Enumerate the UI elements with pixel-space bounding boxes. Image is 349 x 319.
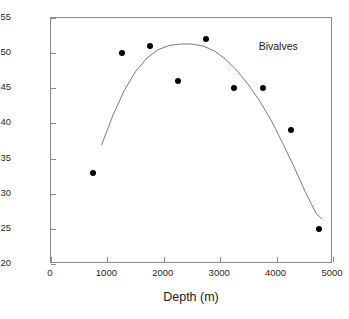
fit-curve bbox=[51, 18, 333, 264]
x-tick-mark bbox=[164, 257, 165, 262]
data-point bbox=[175, 78, 181, 84]
y-tick-mark bbox=[51, 229, 56, 230]
y-tick-label: 50 bbox=[0, 47, 11, 57]
data-point bbox=[119, 50, 125, 56]
data-point bbox=[231, 85, 237, 91]
data-point bbox=[288, 127, 294, 133]
data-point bbox=[260, 85, 266, 91]
data-point bbox=[147, 43, 153, 49]
x-tick-mark bbox=[220, 257, 221, 262]
x-tick-label: 3000 bbox=[199, 268, 239, 278]
y-tick-mark bbox=[51, 264, 56, 265]
x-axis-title: Depth (m) bbox=[50, 290, 332, 304]
y-tick-mark bbox=[51, 18, 56, 19]
y-tick-label: 30 bbox=[0, 188, 11, 198]
y-tick-label: 35 bbox=[0, 153, 11, 163]
y-tick-mark bbox=[51, 88, 56, 89]
y-tick-label: 40 bbox=[0, 117, 11, 127]
x-tick-label: 4000 bbox=[256, 268, 296, 278]
data-point bbox=[316, 226, 322, 232]
x-tick-label: 5000 bbox=[312, 268, 349, 278]
data-point bbox=[90, 170, 96, 176]
y-tick-label: 20 bbox=[0, 258, 11, 268]
x-tick-mark bbox=[51, 257, 52, 262]
y-tick-label: 45 bbox=[0, 82, 11, 92]
data-point bbox=[203, 36, 209, 42]
x-tick-mark bbox=[333, 257, 334, 262]
x-tick-label: 2000 bbox=[143, 268, 183, 278]
plot-area bbox=[50, 17, 332, 263]
chart-figure: Number of Species 2025303540455055010002… bbox=[0, 0, 349, 319]
y-tick-mark bbox=[51, 53, 56, 54]
y-tick-label: 55 bbox=[0, 12, 11, 22]
series-annotation-bivalves: Bivalves bbox=[259, 40, 298, 52]
y-tick-mark bbox=[51, 123, 56, 124]
x-tick-mark bbox=[277, 257, 278, 262]
y-tick-mark bbox=[51, 194, 56, 195]
x-tick-label: 0 bbox=[30, 268, 70, 278]
y-tick-label: 25 bbox=[0, 223, 11, 233]
x-tick-mark bbox=[107, 257, 108, 262]
x-tick-label: 1000 bbox=[86, 268, 126, 278]
y-tick-mark bbox=[51, 159, 56, 160]
